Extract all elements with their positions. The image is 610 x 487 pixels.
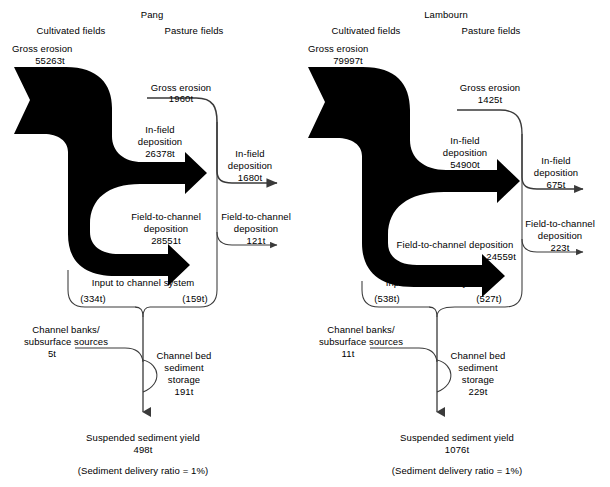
pang-cultivated-infield-label-2: deposition xyxy=(138,136,182,148)
lambourn-pasture-ftc-value: 223t xyxy=(551,242,570,254)
pang-pasture-gross-erosion-value: 1960t xyxy=(169,93,193,105)
panel-title-pang: Pang xyxy=(141,9,164,21)
pang-bed-storage-label-1: Channel bed xyxy=(157,350,212,362)
lambourn-pasture-infield-value: 675t xyxy=(547,179,566,191)
lambourn-channel-banks-label-1: Channel banks/ xyxy=(327,324,394,336)
pang-column-header-pasture: Pasture fields xyxy=(165,25,224,37)
lambourn-pasture-gross-erosion-label: Gross erosion xyxy=(460,82,520,94)
pang-cultivated-ftc-label-1: Field-to-channel xyxy=(131,211,201,223)
lambourn-input-to-channel-label: Input to channel system xyxy=(386,277,489,289)
pang-channel-banks-label-2: subsurface sources xyxy=(24,336,108,348)
pang-bed-storage-value: 191t xyxy=(175,386,194,398)
pang-delivery-ratio: (Sediment delivery ratio = 1%) xyxy=(78,465,209,477)
pang-cultivated-ftc-value: 28551t xyxy=(151,235,181,247)
lambourn-bed-storage-label-1: Channel bed xyxy=(451,350,506,362)
lambourn-channel-banks-label-2: subsurface sources xyxy=(319,336,403,348)
pang-pasture-gross-erosion-label: Gross erosion xyxy=(151,82,211,94)
lambourn-bed-storage-loop xyxy=(437,360,451,392)
pang-channel-banks-line xyxy=(75,348,143,362)
pang-pasture-ftc-label-1: Field-to-channel xyxy=(221,211,291,223)
pang-cultivated-infield-label-1: In-field xyxy=(145,124,174,136)
pang-pasture-ftc-label-2: deposition xyxy=(234,223,278,235)
lambourn-channel-banks-value: 11t xyxy=(342,348,355,360)
pang-bed-storage-loop xyxy=(143,360,157,392)
pang-suspended-yield-value: 498t xyxy=(134,444,153,456)
lambourn-pasture-input-value: (527t) xyxy=(476,293,501,305)
lambourn-pasture-infield-label-1: In-field xyxy=(541,155,570,167)
lambourn-column-header-pasture: Pasture fields xyxy=(462,25,521,37)
lambourn-cultivated-infield-label-2: deposition xyxy=(443,147,487,159)
lambourn-pasture-gross-erosion-value: 1425t xyxy=(478,94,502,106)
pang-channel-stem-group xyxy=(75,307,157,412)
pang-pasture-ftc-value: 121t xyxy=(247,235,266,247)
lambourn-cultivated-infield-label-1: In-field xyxy=(450,135,479,147)
lambourn-cultivated-ftc-label: Field-to-channel deposition xyxy=(397,239,514,251)
lambourn-channel-main-stem xyxy=(429,307,437,412)
pang-cultivated-gross-erosion-value: 55263t xyxy=(35,55,65,67)
lambourn-delivery-ratio: (Sediment delivery ratio = 1%) xyxy=(392,465,523,477)
pang-pasture-infield-label-1: In-field xyxy=(235,148,264,160)
pang-bed-storage-label-3: storage xyxy=(168,374,200,386)
lambourn-cultivated-gross-erosion-label: Gross erosion xyxy=(308,43,368,55)
pang-cultivated-infield-value: 26378t xyxy=(145,148,175,160)
pang-channel-main-stem xyxy=(135,307,143,412)
diagram-vector-layer xyxy=(0,0,610,487)
pang-pasture-infield-label-2: deposition xyxy=(228,160,272,172)
pang-cultivated-ftc-label-2: deposition xyxy=(144,223,188,235)
pang-suspended-yield-label: Suspended sediment yield xyxy=(86,432,200,444)
pang-channel-junction-right xyxy=(143,307,150,317)
pang-cultivated-input-value: (334t) xyxy=(80,293,105,305)
lambourn-column-header-cultivated: Cultivated fields xyxy=(332,25,401,37)
lambourn-cultivated-input-value: (538t) xyxy=(374,293,399,305)
lambourn-suspended-yield-label: Suspended sediment yield xyxy=(400,432,514,444)
panel-title-lambourn: Lambourn xyxy=(424,9,468,21)
pang-pasture-input-value: (159t) xyxy=(182,293,207,305)
lambourn-suspended-yield-value: 1076t xyxy=(445,444,469,456)
lambourn-cultivated-ftc-value: 24559t xyxy=(486,251,516,263)
pang-channel-banks-label-1: Channel banks/ xyxy=(32,324,99,336)
pang-pasture-infield-value: 1680t xyxy=(238,172,262,184)
pang-cultivated-gross-erosion-label: Gross erosion xyxy=(12,43,72,55)
lambourn-bed-storage-label-2: sediment xyxy=(458,362,497,374)
lambourn-pasture-infield-label-2: deposition xyxy=(534,167,578,179)
pang-column-header-cultivated: Cultivated fields xyxy=(37,25,106,37)
lambourn-cultivated-gross-erosion-value: 79997t xyxy=(333,55,363,67)
lambourn-channel-junction-right xyxy=(437,307,455,317)
lambourn-pasture-ftc-label-1: Field-to-channel xyxy=(525,218,595,230)
lambourn-pasture-ftc-label-2: deposition xyxy=(538,230,582,242)
pang-input-to-channel-label: Input to channel system xyxy=(92,277,195,289)
lambourn-bed-storage-value: 229t xyxy=(469,386,488,398)
lambourn-cultivated-infield-value: 54900t xyxy=(450,159,480,171)
pang-channel-banks-value: 5t xyxy=(48,348,56,360)
lambourn-channel-stem-group xyxy=(370,307,455,412)
pang-bed-storage-label-2: sediment xyxy=(164,362,203,374)
lambourn-channel-banks-line xyxy=(370,348,437,362)
lambourn-bed-storage-label-3: storage xyxy=(462,374,494,386)
diagram-canvas: Pang Cultivated fields Pasture fields Gr… xyxy=(0,0,610,487)
